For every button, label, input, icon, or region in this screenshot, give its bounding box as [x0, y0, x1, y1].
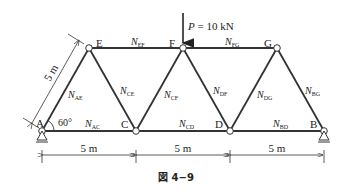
node-label-B: B: [310, 118, 317, 130]
dimension-label-2: 5 m: [175, 142, 192, 154]
node-label-F: F: [169, 37, 175, 49]
label-NDF: NDF: [212, 85, 228, 97]
label-NCD: NCD: [178, 118, 195, 130]
node-label-C: C: [121, 118, 128, 130]
label-NCE: NCE: [119, 85, 135, 97]
label-NEF: NEF: [130, 36, 145, 48]
dimension-label-1: 5 m: [81, 142, 98, 154]
label-NFG: NFG: [224, 36, 240, 48]
node-E: [86, 45, 93, 52]
member-labels: NEF NFG NAE NCE NCF NDF NDG NBG NAC NCD …: [67, 36, 321, 130]
dimension-label-3: 5 m: [269, 142, 286, 154]
node-C: [133, 128, 140, 135]
label-NDG: NDG: [256, 89, 273, 101]
label-NAC: NAC: [84, 118, 100, 130]
support-A-pin: [36, 128, 48, 142]
truss-diagram: P = 10 kN E F G A C D B 60° NEF NFG NAE …: [0, 0, 348, 194]
label-NCF: NCF: [163, 89, 179, 101]
angle-arc-icon: [48, 121, 54, 131]
member-CF: [136, 48, 183, 131]
label-NBG: NBG: [304, 85, 321, 97]
figure-caption: 図 4−9: [158, 172, 194, 183]
member-CE: [89, 48, 136, 131]
angle-label: 60°: [58, 117, 72, 128]
member-DG: [230, 48, 277, 131]
support-B-roller: [318, 128, 330, 142]
node-F: [180, 45, 187, 52]
load-label: P = 10 kN: [187, 20, 234, 32]
inclined-dimension-label: 5 m: [41, 62, 60, 83]
label-NAE: NAE: [67, 89, 83, 101]
node-label-G: G: [264, 37, 272, 49]
label-NBD: NBD: [272, 118, 289, 130]
node-D: [227, 128, 234, 135]
node-label-D: D: [215, 118, 223, 130]
node-G: [274, 45, 281, 52]
node-label-E: E: [96, 37, 103, 49]
inclined-dimension: [23, 34, 84, 128]
